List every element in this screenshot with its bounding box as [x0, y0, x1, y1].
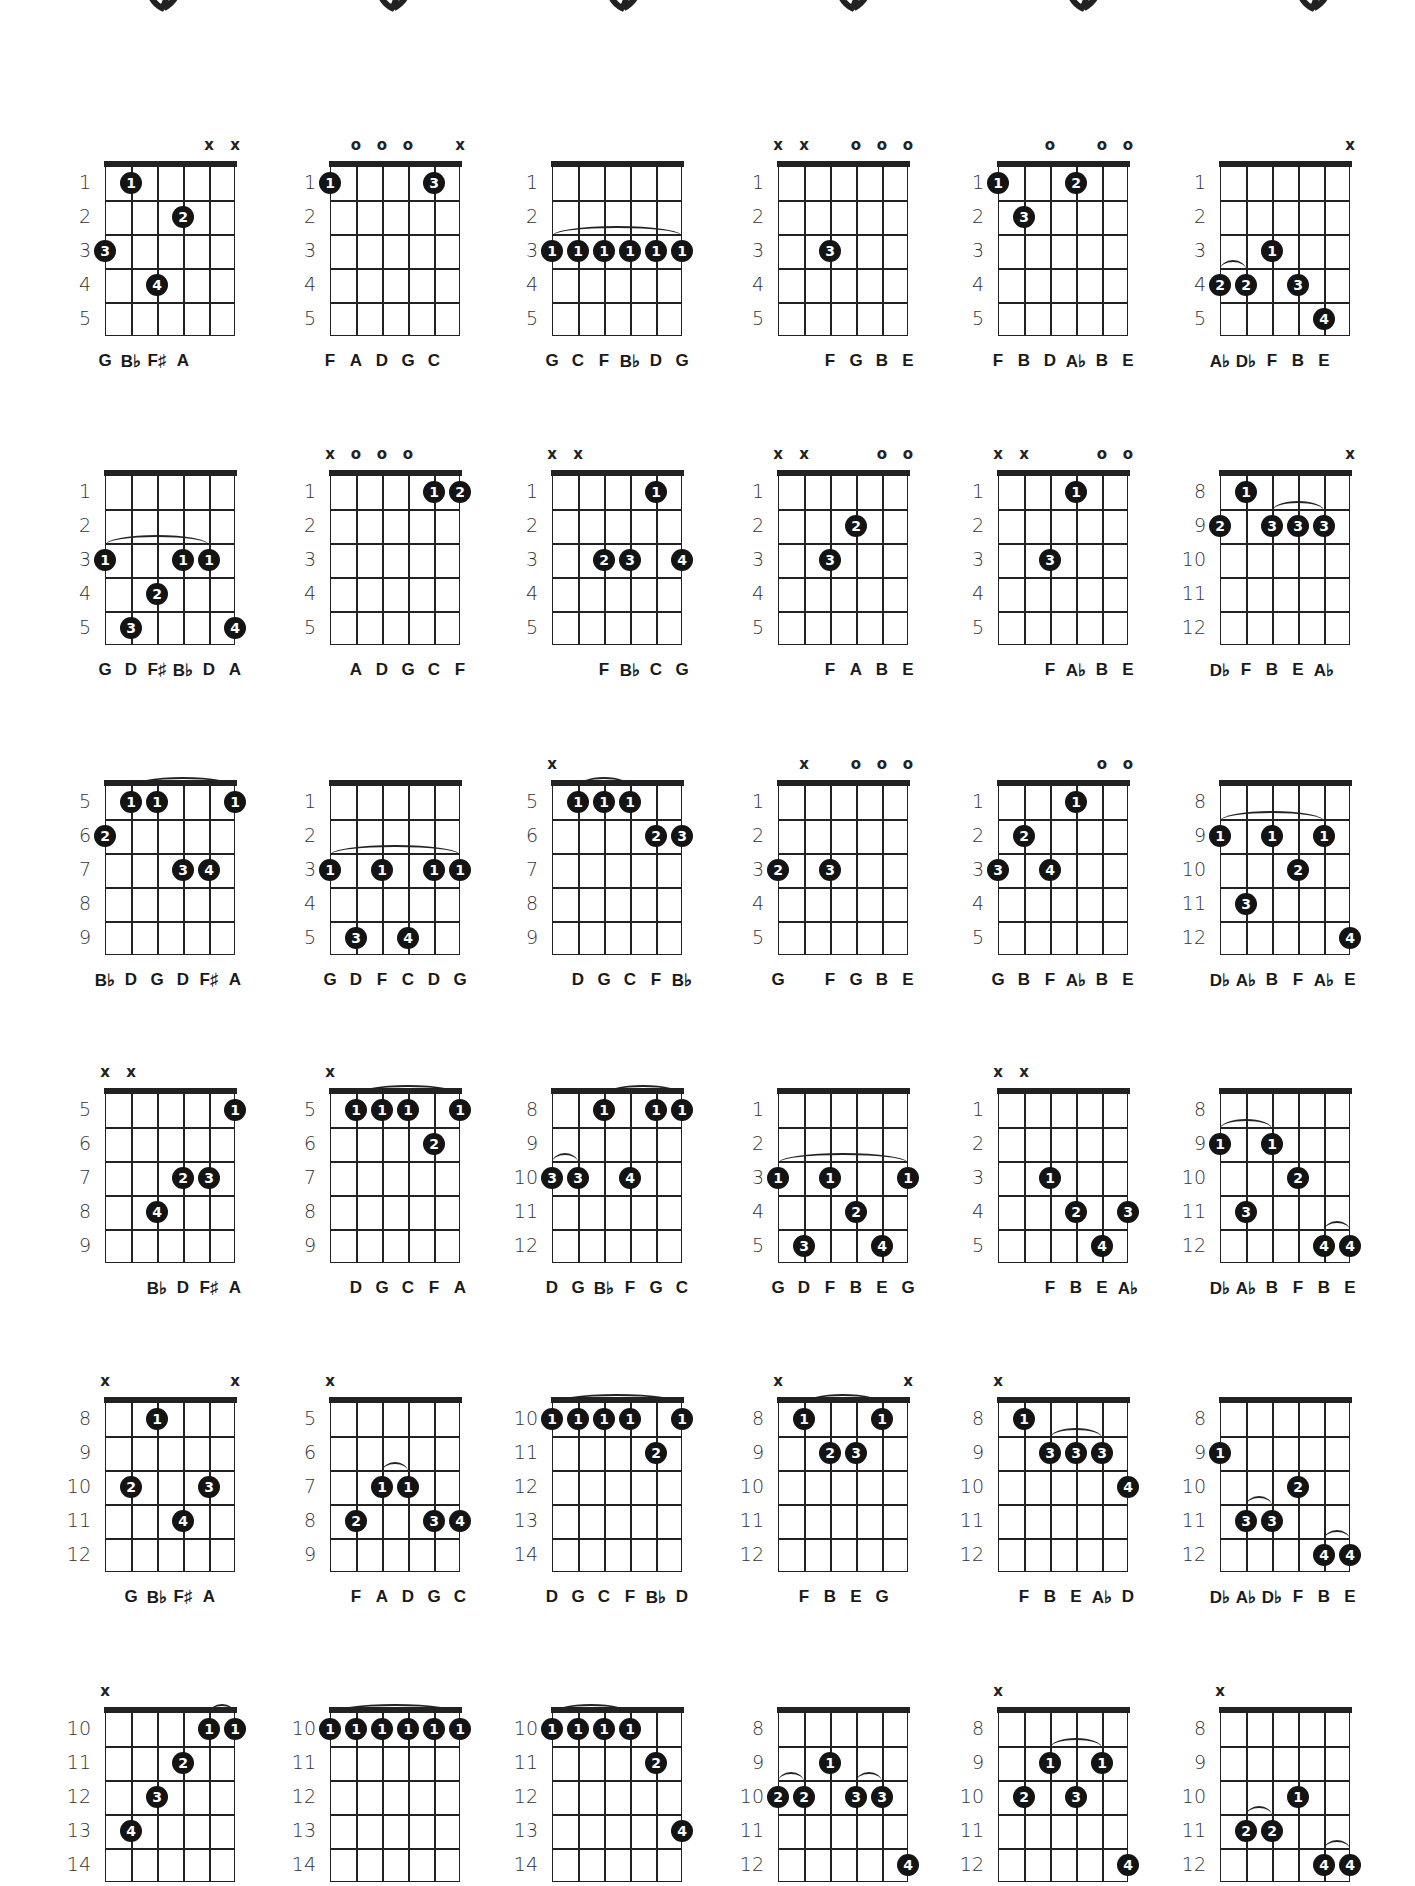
fret-line	[1220, 200, 1350, 202]
fret-line	[778, 268, 908, 270]
finger-dot: 4	[1339, 1544, 1361, 1566]
fret-number: 7	[284, 1166, 316, 1188]
muted-string-icon: x	[544, 755, 560, 773]
note-label: E	[1089, 1278, 1115, 1298]
nut-bar	[104, 161, 237, 167]
fret-number: 8	[506, 892, 538, 914]
fret-number: 5	[59, 1098, 91, 1120]
fret-number: 8	[732, 1717, 764, 1739]
fret-line	[1220, 302, 1350, 304]
note-label: G	[447, 970, 473, 990]
fret-number: 2	[506, 514, 538, 536]
fret-number: 3	[506, 548, 538, 570]
barre-arc	[356, 1085, 460, 1095]
fret-number: 5	[284, 926, 316, 948]
fret-number: 4	[284, 892, 316, 914]
muted-string-icon: x	[1342, 136, 1358, 154]
finger-dot: 1	[819, 1752, 841, 1774]
muted-string-icon: x	[990, 1063, 1006, 1081]
finger-dot: 1	[541, 240, 563, 262]
string-line	[1324, 475, 1326, 645]
nut-bar	[104, 1397, 237, 1403]
open-string-icon: o	[1094, 136, 1110, 154]
fret-number: 13	[284, 1819, 316, 1841]
note-label: F	[1037, 1278, 1063, 1298]
fret-line	[998, 819, 1128, 821]
note-label: F	[617, 1278, 643, 1298]
finger-dot: 4	[871, 1235, 893, 1257]
note-label: B♭	[617, 660, 643, 681]
fret-line	[998, 1127, 1128, 1129]
chord-diagram: 1011121314111112DGCFB♭D	[506, 1372, 726, 1672]
note-label: E	[843, 1587, 869, 1607]
note-label: F	[817, 660, 843, 680]
fret-number: 3	[284, 548, 316, 570]
note-label: F	[817, 1278, 843, 1298]
note-label: D♭	[1233, 351, 1259, 372]
finger-dot: 4	[1091, 1235, 1113, 1257]
fret-line	[330, 819, 460, 821]
note-label: G	[843, 970, 869, 990]
finger-dot: 4	[1339, 1854, 1361, 1876]
fret-number: 3	[732, 858, 764, 880]
finger-dot: 3	[1261, 1510, 1283, 1532]
fret-number: 10	[506, 1407, 538, 1429]
fret-number: 8	[952, 1407, 984, 1429]
fret-number: 3	[59, 548, 91, 570]
note-label: G	[765, 1278, 791, 1298]
fret-number: 5	[952, 926, 984, 948]
fret-number: 9	[1174, 1441, 1206, 1463]
string-line	[209, 166, 211, 336]
fret-number: 11	[1174, 1819, 1206, 1841]
string-line	[183, 1712, 185, 1882]
finger-dot: 1	[1313, 825, 1335, 847]
fret-number: 2	[506, 205, 538, 227]
finger-dot: 1	[371, 1718, 393, 1740]
fret-number: 1	[952, 171, 984, 193]
muted-string-icon: x	[322, 1372, 338, 1390]
string-line	[804, 785, 806, 955]
fret-line	[778, 1814, 908, 1816]
note-label: D	[643, 351, 669, 371]
fret-number: 1	[732, 480, 764, 502]
fret-number: 13	[59, 1819, 91, 1841]
finger-dot: 2	[120, 1476, 142, 1498]
fret-number: 5	[506, 616, 538, 638]
open-string-icon: o	[1120, 755, 1136, 773]
note-label: F	[1037, 970, 1063, 990]
note-label: G	[765, 970, 791, 990]
fret-number: 3	[952, 239, 984, 261]
note-label: D	[565, 970, 591, 990]
fret-number: 9	[732, 1441, 764, 1463]
fret-line	[778, 543, 908, 545]
note-label: A♭	[1115, 1278, 1141, 1299]
fret-line	[778, 853, 908, 855]
finger-dot: 3	[423, 1510, 445, 1532]
fret-number: 12	[732, 1853, 764, 1875]
fret-line	[778, 1436, 908, 1438]
fret-line	[105, 1470, 235, 1472]
finger-dot: 2	[1235, 274, 1257, 296]
fret-number: 10	[732, 1785, 764, 1807]
finger-dot: 3	[1287, 274, 1309, 296]
fret-number: 4	[952, 1200, 984, 1222]
note-label: B♭	[144, 1278, 170, 1299]
fret-line	[998, 543, 1128, 545]
fret-line	[105, 1161, 235, 1163]
note-label: B♭	[118, 351, 144, 372]
finger-dot: 2	[1013, 1786, 1035, 1808]
nut-bar	[1219, 1397, 1352, 1403]
muted-string-icon: x	[770, 136, 786, 154]
fret-line	[330, 1127, 460, 1129]
note-label: A	[222, 660, 248, 680]
nut-bar	[997, 1088, 1130, 1094]
fret-number: 1	[952, 480, 984, 502]
finger-dot: 1	[645, 240, 667, 262]
note-label: B	[1285, 351, 1311, 371]
fret-line	[105, 1746, 235, 1748]
barre-arc	[552, 1394, 682, 1404]
finger-dot: 1	[371, 1476, 393, 1498]
note-label: A♭	[1207, 351, 1233, 372]
note-label: B♭	[170, 660, 196, 681]
string-line	[1246, 166, 1248, 336]
